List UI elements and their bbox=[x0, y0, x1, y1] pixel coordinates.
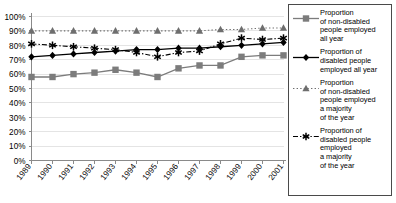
x-tick-label: 2001 bbox=[267, 162, 286, 182]
y-tick-label: 80% bbox=[9, 42, 25, 51]
x-tick-label: 1995 bbox=[141, 162, 160, 182]
legend-entry[interactable]: Proportion of non-disabled people employ… bbox=[292, 79, 389, 122]
data-series-layer bbox=[28, 24, 287, 80]
legend-label: Proportion of disabled people employed a… bbox=[320, 127, 371, 170]
y-tick-label: 70% bbox=[9, 56, 25, 65]
x-tick-label: 1998 bbox=[204, 162, 223, 182]
series-2 bbox=[28, 24, 287, 33]
chart-legend: Proportion of non-disabled people employ… bbox=[288, 4, 392, 196]
y-tick-label: 90% bbox=[9, 27, 25, 36]
legend-marker-square-icon bbox=[292, 10, 320, 21]
legend-label: Proportion of disabled people employed a… bbox=[320, 48, 377, 74]
y-tick-label: 40% bbox=[9, 99, 25, 108]
x-tick-label: 1993 bbox=[99, 162, 118, 182]
gridlines bbox=[32, 17, 284, 147]
legend-marker-asterisk-icon bbox=[292, 128, 320, 139]
y-tick-label: 60% bbox=[9, 70, 25, 79]
legend-entry[interactable]: Proportion of non-disabled people employ… bbox=[292, 9, 389, 43]
x-tick-label: 1994 bbox=[120, 162, 139, 182]
y-tick-label: 100% bbox=[5, 13, 26, 22]
x-tick-label: 1999 bbox=[225, 162, 244, 182]
y-tick-label: 30% bbox=[9, 114, 25, 123]
x-tick-label: 1997 bbox=[183, 162, 202, 182]
x-tick-label: 1992 bbox=[78, 162, 97, 182]
y-tick-label: 50% bbox=[9, 85, 25, 94]
legend-marker-diamond-icon bbox=[292, 49, 320, 60]
legend-label: Proportion of non-disabled people employ… bbox=[320, 9, 376, 43]
legend-entry[interactable]: Proportion of disabled people employed a… bbox=[292, 48, 389, 74]
y-axis-tick-labels: 0%10%20%30%40%50%60%70%80%90%100% bbox=[5, 13, 26, 166]
legend-entry[interactable]: Proportion of disabled people employed a… bbox=[292, 127, 389, 170]
legend-label: Proportion of non-disabled people employ… bbox=[320, 79, 376, 122]
y-tick-label: 10% bbox=[9, 142, 25, 151]
x-tick-label: 2000 bbox=[246, 162, 265, 182]
x-tick-label: 1991 bbox=[57, 162, 76, 182]
chart-container: 0%10%20%30%40%50%60%70%80%90%100% 198919… bbox=[0, 0, 396, 203]
y-tick-label: 20% bbox=[9, 128, 25, 137]
legend-marker-triangle-icon bbox=[292, 80, 320, 91]
x-tick-label: 1996 bbox=[162, 162, 181, 182]
x-tick-label: 1990 bbox=[36, 162, 55, 182]
x-axis-tick-labels: 1989199019911992199319941995199619971998… bbox=[15, 162, 286, 182]
